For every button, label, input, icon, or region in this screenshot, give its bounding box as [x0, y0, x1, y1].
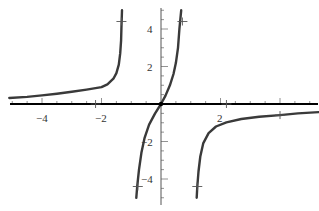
- x-tick-label-neg4: −4: [36, 112, 48, 124]
- x-tick-label-neg2: −2: [95, 112, 107, 124]
- x-tick-label-2: 2: [217, 112, 223, 124]
- right-branch-curve: [197, 112, 319, 198]
- y-tick-label-neg4: −4: [141, 173, 153, 185]
- origin-point: [159, 102, 163, 106]
- function-plot: −4 −2 2 4 2 −2 −4: [0, 0, 319, 211]
- left-branch-curve: [9, 10, 122, 98]
- y-tick-label-4: 4: [147, 23, 153, 35]
- y-tick-label-neg2: −2: [141, 136, 153, 148]
- y-tick-label-2: 2: [147, 61, 153, 73]
